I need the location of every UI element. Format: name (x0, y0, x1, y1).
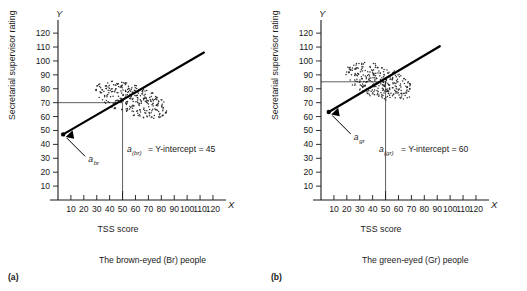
panel-a-ytick-30: 30 (40, 153, 50, 163)
panel-b-xtick-30: 30 (355, 204, 365, 214)
panel-b-plot: 1020304050607080901001101201020304050607… (299, 20, 489, 214)
panel-b-ytick-70: 70 (303, 98, 313, 108)
panel-a: Secretarial supervisor rating Y X TSS sc… (0, 0, 263, 291)
panel-b-x-axis-letter: X (490, 199, 498, 210)
panel-b-ylabel: Secretarial supervisor rating (270, 10, 280, 120)
panel-a-xtick-40: 40 (105, 204, 115, 214)
panel-a-xtick-10: 10 (66, 204, 76, 214)
panel-a-xtick-90: 90 (169, 204, 179, 214)
panel-a-ytick-80: 80 (40, 84, 50, 94)
panel-a-ytick-110: 110 (36, 42, 50, 52)
panel-a-ytick-40: 40 (40, 139, 50, 149)
panel-a-ytick-20: 20 (40, 167, 50, 177)
panel-b-xtick-20: 20 (342, 204, 352, 214)
panel-b-ytick-90: 90 (303, 70, 313, 80)
panel-b-xtick-90: 90 (432, 204, 442, 214)
panel-a-x-axis-letter: X (227, 199, 235, 210)
panel-b-annotation: a (gr) = Y-intercept = 60 (379, 144, 469, 156)
panel-b-xtick-10: 10 (329, 204, 339, 214)
panel-a-arrow-label-subscript: br (94, 159, 100, 166)
panel-a-ytick-120: 120 (36, 28, 51, 38)
panel-b-annot-text: = Y-intercept = 60 (401, 144, 469, 154)
panel-a-annotation: a (br) = Y-intercept = 45 (127, 144, 216, 156)
panel-b-xtick-120: 120 (469, 204, 484, 214)
panel-b-xtick-60: 60 (394, 204, 404, 214)
panel-b-arrow-label-symbol: a (354, 132, 359, 142)
panel-a-ytick-100: 100 (36, 56, 51, 66)
panel-b-ytick-100: 100 (299, 56, 314, 66)
panel-b-ytick-120: 120 (299, 28, 314, 38)
svg-text:Secretarial supervisor rating: Secretarial supervisor rating (7, 10, 17, 120)
panel-b-y-axis-letter: Y (319, 8, 326, 19)
panel-b: Secretarial supervisor rating Y X TSS sc… (263, 0, 526, 291)
panel-a-ytick-90: 90 (40, 70, 50, 80)
panel-a-xtick-30: 30 (92, 204, 102, 214)
panel-a-ylabel: Secretarial supervisor rating (7, 10, 17, 120)
panel-b-ytick-80: 80 (303, 84, 313, 94)
panel-b-xtick-50: 50 (381, 204, 391, 214)
panel-b-xtick-40: 40 (368, 204, 378, 214)
figure-scatter-regression-pair: Secretarial supervisor rating Y X TSS sc… (0, 0, 527, 291)
panel-b-ytick-40: 40 (303, 139, 313, 149)
panel-a-annot-text: = Y-intercept = 45 (148, 144, 216, 154)
panel-a-ytick-50: 50 (40, 125, 50, 135)
svg-text:Secretarial supervisor rating: Secretarial supervisor rating (270, 10, 280, 120)
panel-a-ytick-60: 60 (40, 112, 50, 122)
panel-a-xlabel: TSS score (97, 224, 138, 234)
panel-b-ytick-110: 110 (299, 42, 313, 52)
panel-b-svg: Secretarial supervisor rating Y X TSS sc… (263, 0, 526, 291)
panel-b-ytick-50: 50 (303, 125, 313, 135)
panel-a-svg: Secretarial supervisor rating Y X TSS sc… (0, 0, 263, 291)
panel-a-xtick-50: 50 (118, 204, 128, 214)
panel-b-arrow-label-subscript: gr (359, 137, 365, 144)
panel-b-ytick-20: 20 (303, 167, 313, 177)
panel-a-arrow-label-symbol: a (88, 154, 93, 164)
panel-b-xtick-80: 80 (420, 204, 430, 214)
panel-b-xlabel: TSS score (360, 224, 401, 234)
panel-a-xtick-80: 80 (157, 204, 167, 214)
panel-a-intercept-arrow (67, 138, 86, 157)
panel-a-xtick-20: 20 (79, 204, 89, 214)
panel-a-annot-subscript: (br) (132, 149, 142, 156)
panel-b-intercept-arrow (332, 115, 351, 134)
panel-a-xtick-60: 60 (131, 204, 141, 214)
panel-a-plot: 1020304050607080901001101201020304050607… (36, 20, 226, 214)
panel-b-annot-subscript: (gr) (384, 149, 394, 156)
panel-a-xtick-120: 120 (206, 204, 221, 214)
panel-b-ytick-10: 10 (303, 181, 313, 191)
panel-a-xtick-70: 70 (144, 204, 154, 214)
panel-a-ytick-70: 70 (40, 98, 50, 108)
panel-b-ytick-60: 60 (303, 112, 313, 122)
panel-b-ytick-30: 30 (303, 153, 313, 163)
panel-a-ytick-10: 10 (40, 181, 50, 191)
panel-b-xtick-70: 70 (407, 204, 417, 214)
panel-a-y-axis-letter: Y (56, 8, 63, 19)
